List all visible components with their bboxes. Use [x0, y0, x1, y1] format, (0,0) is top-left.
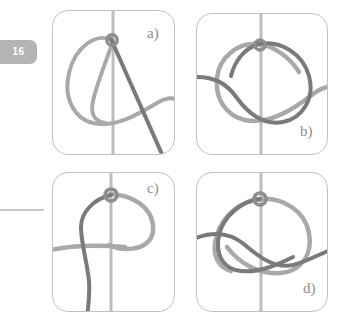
panel-a-light-curve-tail	[92, 41, 113, 123]
page-number: 16	[12, 47, 24, 57]
margin-rule	[0, 209, 44, 211]
panel-a-light-curve	[67, 38, 175, 124]
panel-label-a: a)	[147, 26, 159, 41]
panel-c-light-curve	[109, 194, 153, 249]
panel-b-dark-curve	[197, 43, 311, 122]
panel-label-d: d)	[303, 281, 316, 296]
panel-a-dark-curve	[111, 39, 165, 155]
panel-c-dark-curve	[81, 195, 111, 312]
panel-label-b: b)	[300, 124, 313, 139]
figure-page: 16 a) b)	[0, 0, 343, 321]
page-number-tab: 16	[0, 40, 37, 64]
panel-label-c: c)	[147, 181, 159, 196]
